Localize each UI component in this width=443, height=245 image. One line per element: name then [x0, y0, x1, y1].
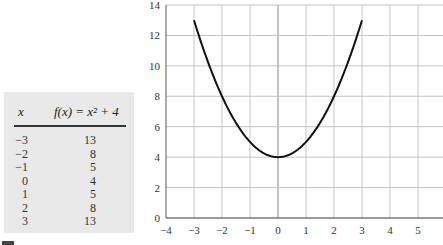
x-tick-label: 2 — [331, 224, 337, 236]
y-tick-label: 0 — [155, 212, 161, 224]
x-tick-label: 1 — [303, 224, 309, 236]
function-chart: −4−3−2−101234502468101214 — [0, 0, 443, 245]
x-tick-label: −3 — [188, 224, 200, 236]
y-tick-label: 14 — [149, 0, 161, 11]
x-tick-label: 0 — [275, 224, 281, 236]
y-tick-label: 8 — [155, 90, 161, 102]
x-tick-label: 5 — [415, 224, 421, 236]
y-tick-label: 10 — [149, 60, 161, 72]
y-tick-label: 2 — [155, 182, 161, 194]
x-tick-label: 3 — [359, 224, 365, 236]
x-tick-label: −4 — [160, 224, 172, 236]
y-tick-label: 12 — [149, 29, 160, 41]
x-tick-label: 4 — [387, 224, 393, 236]
y-tick-label: 4 — [155, 151, 161, 163]
y-tick-label: 6 — [155, 121, 161, 133]
x-tick-label: −2 — [216, 224, 228, 236]
x-tick-label: −1 — [244, 224, 256, 236]
